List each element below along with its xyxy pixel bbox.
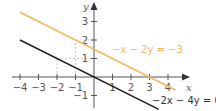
x-tick-label: −3 xyxy=(31,82,46,93)
equation-label-orange: −x − 2y = −3 xyxy=(112,44,183,55)
y-axis-label: y xyxy=(82,1,89,12)
y-axis-arrow-icon xyxy=(91,2,98,10)
x-tick-label: −4 xyxy=(13,82,28,93)
coordinate-graph: −4 −3 −2 −1 1 2 3 4 3 2 1 −1 x y −x − 2y… xyxy=(0,0,216,111)
x-tick-label: 3 xyxy=(146,82,152,93)
x-tick-label: 2 xyxy=(128,82,134,93)
y-tick-label: 3 xyxy=(82,16,88,27)
y-tick-label: 1 xyxy=(82,53,88,64)
x-tick-label: −2 xyxy=(50,82,65,93)
equation-label-black: −2x − 4y = 0 xyxy=(152,95,216,106)
x-axis-arrow-icon xyxy=(182,74,190,81)
x-axis-label: x xyxy=(186,82,192,93)
y-tick-label: −1 xyxy=(73,90,88,101)
dashed-guides xyxy=(57,40,94,77)
